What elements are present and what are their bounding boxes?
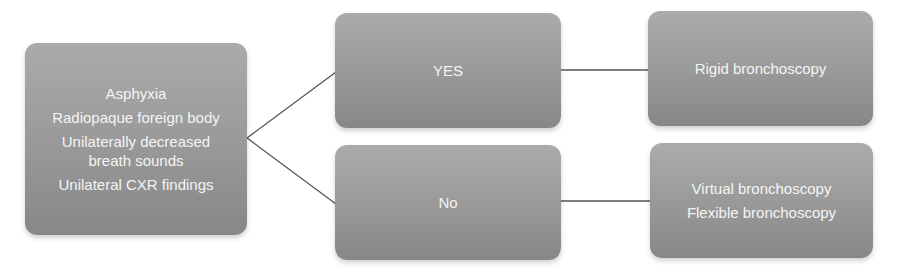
edge-criteria-to-no [247, 138, 336, 204]
criteria-radiopaque-foreign-body: Radiopaque foreign body [52, 108, 220, 127]
decision-yes-node: YES [335, 13, 561, 128]
decision-yes-label: YES [433, 61, 463, 80]
criteria-node: Asphyxia Radiopaque foreign body Unilate… [25, 43, 247, 235]
outcome-virtual-bronchoscopy: Virtual bronchoscopy [692, 179, 832, 198]
edge-criteria-to-yes [247, 72, 336, 138]
criteria-asphyxia: Asphyxia [106, 84, 167, 103]
decision-no-node: No [335, 145, 561, 260]
decision-no-label: No [438, 193, 457, 212]
outcome-flexible-bronchoscopy: Flexible bronchoscopy [687, 203, 836, 222]
criteria-unilateral-breath-sounds-line2: breath sounds [88, 151, 183, 170]
criteria-unilateral-breath-sounds-line1: Unilaterally decreased [62, 132, 210, 151]
criteria-unilateral-cxr-findings: Unilateral CXR findings [58, 175, 213, 194]
outcome-virtual-flexible-node: Virtual bronchoscopy Flexible bronchosco… [650, 143, 873, 258]
outcome-rigid-bronchoscopy: Rigid bronchoscopy [695, 59, 827, 78]
outcome-rigid-bronchoscopy-node: Rigid bronchoscopy [648, 11, 873, 126]
